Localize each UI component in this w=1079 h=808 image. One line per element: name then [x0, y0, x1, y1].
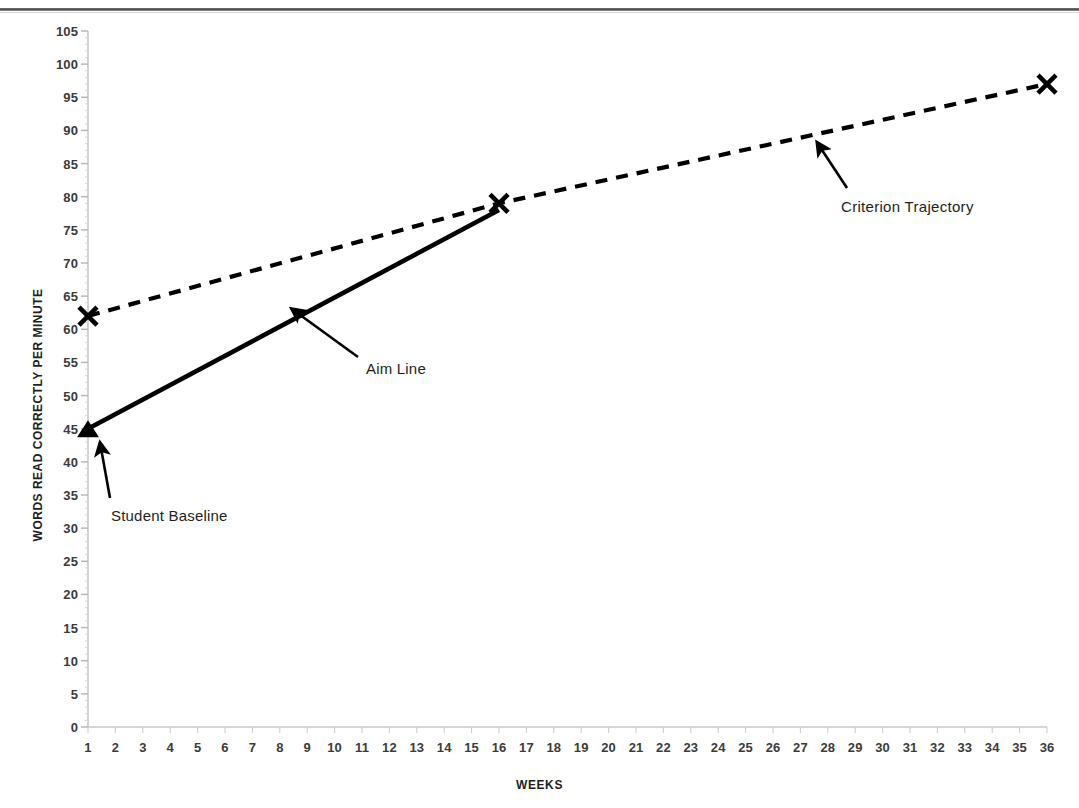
x-tick-label: 34	[979, 740, 1005, 755]
x-tick-label: 8	[267, 740, 293, 755]
x-tick-label: 18	[541, 740, 567, 755]
x-tick-label: 32	[924, 740, 950, 755]
x-tick-label: 10	[322, 740, 348, 755]
y-tick-label: 100	[32, 57, 78, 72]
x-tick-label: 11	[349, 740, 375, 755]
marker-x	[1038, 75, 1056, 93]
x-tick-label: 21	[623, 740, 649, 755]
x-tick-label: 16	[486, 740, 512, 755]
x-tick-label: 33	[952, 740, 978, 755]
y-tick-label: 0	[32, 720, 78, 735]
x-tick-label: 14	[431, 740, 457, 755]
x-tick-label: 4	[157, 740, 183, 755]
x-tick-label: 30	[870, 740, 896, 755]
x-tick-label: 23	[678, 740, 704, 755]
y-tick-label: 90	[32, 123, 78, 138]
arrow-aim-line	[296, 312, 358, 357]
axis-lines	[88, 31, 1047, 727]
x-tick-label: 12	[376, 740, 402, 755]
x-tick-label: 31	[897, 740, 923, 755]
x-axis-ticks	[88, 727, 1047, 733]
series-line-aim-line	[88, 210, 499, 429]
y-tick-label: 5	[32, 686, 78, 701]
annotation-arrows	[101, 147, 847, 498]
x-tick-label: 26	[760, 740, 786, 755]
y-tick-label: 20	[32, 587, 78, 602]
x-tick-label: 22	[650, 740, 676, 755]
x-tick-label: 27	[787, 740, 813, 755]
x-tick-label: 9	[294, 740, 320, 755]
annotation-aim-line: Aim Line	[366, 360, 426, 377]
annotation-criterion-trajectory: Criterion Trajectory	[841, 198, 974, 215]
x-tick-label: 3	[130, 740, 156, 755]
data-series-layer	[77, 75, 1056, 437]
axis-major-ticks	[81, 31, 88, 727]
x-tick-label: 13	[404, 740, 430, 755]
x-tick-label: 6	[212, 740, 238, 755]
x-tick-label: 5	[185, 740, 211, 755]
y-tick-label: 85	[32, 156, 78, 171]
x-tick-label: 19	[568, 740, 594, 755]
x-tick-label: 25	[733, 740, 759, 755]
arrow-criterion-trajectory	[820, 147, 847, 188]
x-tick-label: 7	[239, 740, 265, 755]
x-tick-label: 28	[815, 740, 841, 755]
y-tick-label: 105	[32, 24, 78, 39]
arrow-student-baseline	[101, 448, 110, 498]
x-tick-label: 24	[705, 740, 731, 755]
annotation-student-baseline: Student Baseline	[111, 507, 228, 524]
y-tick-label: 75	[32, 222, 78, 237]
progress-monitoring-chart: 0510152025303540455055606570758085909510…	[0, 0, 1079, 808]
y-axis-title: WORDS READ CORRECTLY PER MINUTE	[31, 255, 45, 575]
x-tick-label: 15	[459, 740, 485, 755]
x-tick-label: 2	[102, 740, 128, 755]
x-tick-label: 20	[596, 740, 622, 755]
chart-plot-svg	[0, 0, 1079, 808]
x-tick-label: 17	[513, 740, 539, 755]
y-tick-label: 10	[32, 653, 78, 668]
x-tick-label: 35	[1007, 740, 1033, 755]
x-tick-label: 1	[75, 740, 101, 755]
page-root: 0510152025303540455055606570758085909510…	[0, 0, 1079, 808]
x-tick-label: 36	[1034, 740, 1060, 755]
x-axis-title: WEEKS	[0, 778, 1079, 792]
y-tick-label: 80	[32, 189, 78, 204]
y-tick-label: 95	[32, 90, 78, 105]
x-tick-label: 29	[842, 740, 868, 755]
y-tick-label: 15	[32, 620, 78, 635]
